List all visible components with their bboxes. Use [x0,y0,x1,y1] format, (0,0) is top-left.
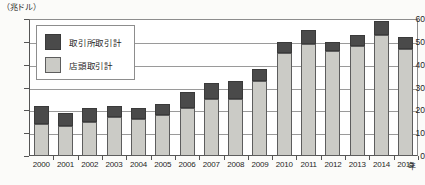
legend-item-exchange: 取引所取引計 [45,34,122,50]
bar-segment-exchange[interactable] [155,104,170,115]
bar-segment-exchange[interactable] [34,106,49,124]
y-axis-tick-mark [24,156,29,157]
y-axis-tick-mark [24,110,29,111]
x-axis-tick-label: 2003 [106,160,123,169]
bar-segment-exchange[interactable] [252,69,267,80]
y-axis-tick-label: 0 [403,152,425,161]
bar-segment-otc[interactable] [301,44,316,156]
bar-segment-exchange[interactable] [301,30,316,44]
bar-segment-exchange[interactable] [374,21,389,35]
y-axis-tick-label: 40 [403,60,425,69]
legend-swatch-icon-exchange [45,34,61,50]
x-axis-tick-mark [199,156,200,160]
bar-segment-otc[interactable] [131,119,146,156]
legend-item-otc: 店頭取引計 [45,57,113,73]
x-axis-tick-label: 2007 [203,160,220,169]
x-axis-tick-label: 2009 [251,160,268,169]
x-axis-tick-mark [175,156,176,160]
legend-swatch-icon-otc [45,57,61,73]
bar-segment-otc[interactable] [58,126,73,156]
x-axis-tick-label: 2014 [373,160,390,169]
y-axis-tick-mark [24,133,29,134]
y-axis-tick-label: 30 [403,83,425,92]
bar-segment-otc[interactable] [82,122,97,156]
chart-legend: 取引所取引計 店頭取引計 [36,25,135,80]
x-axis-tick-mark [369,156,370,160]
bar-segment-exchange[interactable] [180,92,195,108]
x-axis-tick-mark [345,156,346,160]
x-axis-tick-label: 2008 [227,160,244,169]
y-axis-tick-label: 20 [403,106,425,115]
x-axis-tick-label: 2004 [130,160,147,169]
bar-segment-otc[interactable] [325,51,340,156]
x-axis-tick-label: 2011 [300,160,316,169]
x-axis-tick-label: 2012 [324,160,341,169]
y-axis [0,0,26,185]
x-axis-tick-mark [102,156,103,160]
bar-segment-exchange[interactable] [350,35,365,46]
x-axis-tick-label: 2013 [349,160,366,169]
bar-segment-otc[interactable] [155,115,170,156]
x-axis-tick-mark [151,156,152,160]
y-axis-tick-mark [24,19,29,20]
bar-segment-otc[interactable] [252,81,267,156]
bar-segment-exchange[interactable] [58,113,73,127]
x-axis-tick-mark [394,156,395,160]
y-axis-tick-label: 50 [403,38,425,47]
y-axis-tick-mark [24,65,29,66]
y-axis-tick-mark [24,42,29,43]
y-axis-tick-label: 10 [403,129,425,138]
x-axis-tick-label: 2000 [33,160,50,169]
legend-label-exchange: 取引所取引計 [69,36,122,48]
x-axis-tick-mark [296,156,297,160]
bar-segment-otc[interactable] [107,117,122,156]
bar-segment-otc[interactable] [180,108,195,156]
x-axis-tick-label: 2005 [154,160,171,169]
x-axis-tick-label: 2010 [276,160,293,169]
bar-segment-otc[interactable] [228,99,243,156]
legend-label-otc: 店頭取引計 [69,59,113,71]
y-axis-tick-mark [24,88,29,89]
bar-segment-exchange[interactable] [228,81,243,99]
x-axis-tick-label: 2001 [57,160,74,169]
bar-segment-exchange[interactable] [277,42,292,53]
bar-segment-exchange[interactable] [131,108,146,119]
x-axis-tick-label: 2002 [81,160,98,169]
x-axis-tick-mark [248,156,249,160]
x-axis-tick-mark [272,156,273,160]
bar-segment-otc[interactable] [204,99,219,156]
bar-segment-otc[interactable] [374,35,389,156]
x-axis-tick-mark [418,156,419,160]
x-axis-tick-label: 2006 [179,160,196,169]
x-axis-unit-label: 年 [408,160,416,171]
bar-segment-exchange[interactable] [325,42,340,51]
bar-segment-exchange[interactable] [82,108,97,122]
x-axis-tick-mark [224,156,225,160]
x-axis-tick-mark [126,156,127,160]
chart-container: （兆ドル） 6050403020100 20002001200220032004… [0,0,425,185]
bar-segment-otc[interactable] [350,46,365,156]
bar-segment-exchange[interactable] [107,106,122,117]
x-axis-tick-mark [78,156,79,160]
x-axis-tick-mark [321,156,322,160]
y-axis-tick-label: 60 [403,15,425,24]
x-axis-tick-mark [53,156,54,160]
bar-segment-otc[interactable] [34,124,49,156]
bar-segment-exchange[interactable] [204,83,219,99]
bar-segment-otc[interactable] [277,53,292,156]
